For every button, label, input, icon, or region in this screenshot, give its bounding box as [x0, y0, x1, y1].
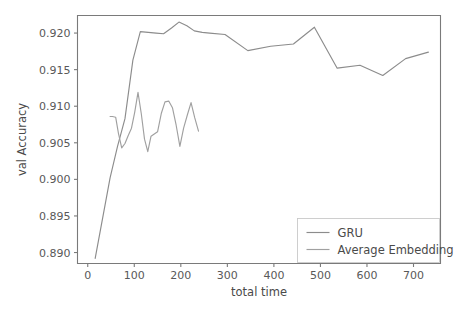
x-axis-title: total time: [231, 285, 287, 299]
line-chart-canvas: 01002003004005006007000.8900.8950.9000.9…: [0, 0, 460, 310]
x-tick-label: 700: [403, 269, 424, 282]
x-tick-label: 300: [217, 269, 238, 282]
chart-figure: 01002003004005006007000.8900.8950.9000.9…: [0, 0, 460, 310]
y-tick-label: 0.910: [39, 100, 71, 113]
x-tick-label: 600: [356, 269, 377, 282]
x-tick-label: 500: [310, 269, 331, 282]
y-axis-title: val Accuracy: [15, 103, 29, 176]
y-tick-label: 0.895: [39, 210, 71, 223]
chart-legend[interactable]: GRUAverage Embedding: [298, 219, 454, 263]
x-tick-label: 0: [84, 269, 91, 282]
y-tick-label: 0.920: [39, 27, 71, 40]
legend-label-average-embedding[interactable]: Average Embedding: [338, 243, 454, 257]
x-tick-label: 200: [170, 269, 191, 282]
x-tick-label: 100: [124, 269, 145, 282]
x-tick-label: 400: [263, 269, 284, 282]
y-tick-label: 0.905: [39, 137, 71, 150]
y-tick-label: 0.890: [39, 247, 71, 260]
y-tick-label: 0.915: [39, 64, 71, 77]
y-tick-label: 0.900: [39, 173, 71, 186]
legend-label-gru[interactable]: GRU: [338, 226, 363, 240]
